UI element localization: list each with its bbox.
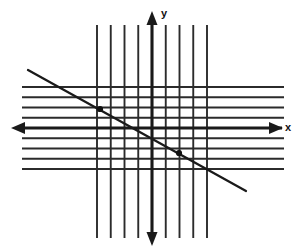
x-axis-label: x: [285, 121, 292, 133]
y-axis-label: y: [161, 7, 168, 19]
coordinate-grid-figure: x y: [0, 0, 308, 251]
figure-background: [0, 0, 308, 251]
figure-container: x y: [0, 0, 308, 251]
line-point-b: [176, 150, 182, 156]
line-point-a: [97, 106, 103, 112]
